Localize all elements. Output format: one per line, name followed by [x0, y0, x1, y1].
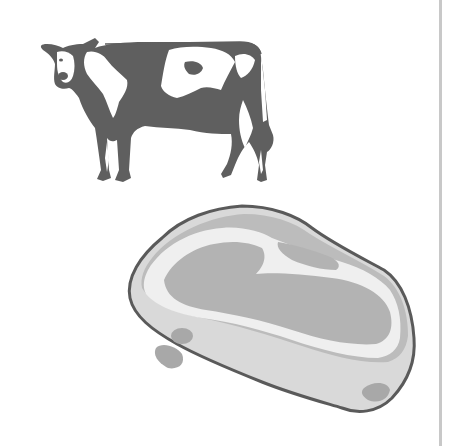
cow-caption: Holstein cow standing, facing left, blac…: [0, 0, 1, 1]
cow-illustration: [35, 30, 285, 190]
vertical-divider: [439, 0, 442, 446]
steak-caption: Raw steak cut with fat marbling: [0, 0, 1, 1]
illustration-canvas: Holstein cow standing, facing left, blac…: [0, 0, 453, 446]
steak-illustration: [122, 198, 422, 420]
